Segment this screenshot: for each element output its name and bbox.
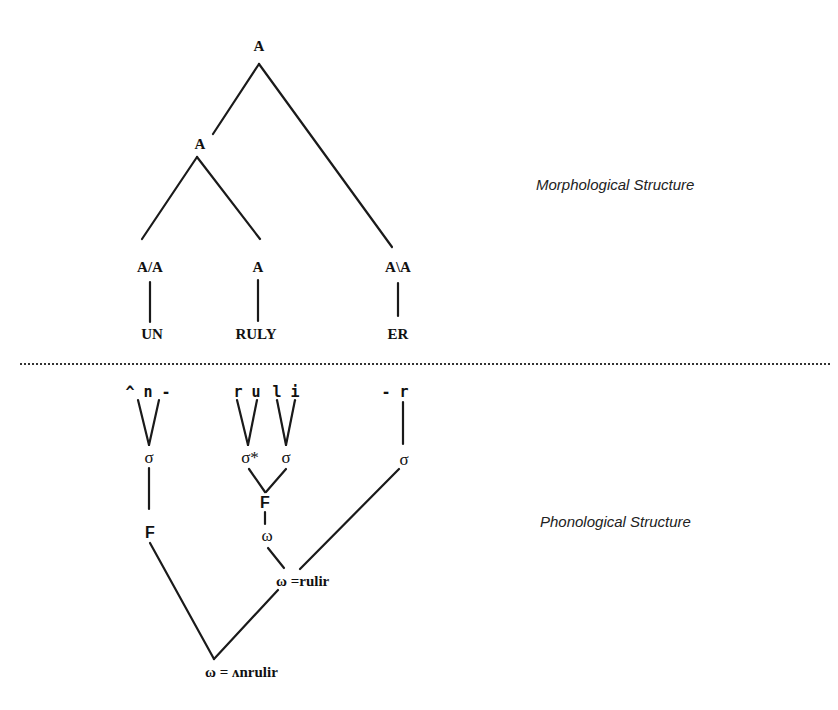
- morph-inner-node: A: [195, 136, 206, 152]
- syllable-er: σ: [399, 450, 408, 469]
- morph-root-node: A: [254, 38, 265, 54]
- segments-li: l i: [272, 383, 299, 401]
- segments-ru: r u: [233, 383, 260, 401]
- syllable-li: σ: [281, 448, 290, 467]
- morph-stem-ruly: RULY: [235, 326, 276, 342]
- segments-un: ^ n -: [125, 383, 170, 401]
- prosodic-word-unrulir: ω = ʌnrulir: [205, 664, 278, 680]
- morph-prefix-category: A/A: [137, 259, 163, 275]
- prosodic-word-rulir: ω =rulir: [276, 573, 330, 589]
- prosodic-word-ruli: ω: [261, 526, 272, 545]
- morpho-phonological-tree-diagram: A A A/A A A\A UN RULY ER Morphological S…: [0, 0, 838, 710]
- segments-er: - r: [381, 383, 408, 401]
- morphological-tree-edges: [142, 64, 398, 322]
- syllable-un: σ: [144, 448, 153, 467]
- morph-prefix-un: UN: [141, 326, 163, 342]
- morph-stem-category: A: [253, 259, 264, 275]
- phonological-structure-label: Phonological Structure: [540, 513, 691, 530]
- morphological-structure-label: Morphological Structure: [536, 176, 694, 193]
- morph-suffix-er: ER: [388, 326, 409, 342]
- morph-suffix-category: A\A: [385, 259, 411, 275]
- foot-ruli: F: [260, 494, 270, 511]
- foot-un: F: [145, 524, 155, 541]
- syllable-ru-stressed: σ*: [241, 448, 259, 467]
